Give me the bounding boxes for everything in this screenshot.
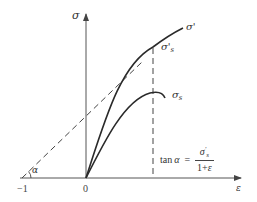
neg-one-tick-label: −1	[17, 184, 28, 194]
angle-arc	[29, 172, 32, 179]
true-ultimate-label-base: σ'	[161, 41, 171, 52]
formula-equals: =	[184, 154, 190, 165]
denominator-prefix: 1+	[197, 162, 208, 173]
diagram-canvas	[0, 0, 257, 202]
numerator-sub: s	[206, 151, 209, 159]
formula-alpha: α	[174, 154, 179, 165]
angle-alpha-label: α	[32, 166, 38, 175]
stress-strain-diagram: σ ε 0 −1 α σ' σ's σs tan α = σ's 1+ε	[0, 0, 257, 202]
formula-denominator: 1+ε	[195, 160, 214, 173]
x-axis-label: ε	[236, 184, 241, 193]
true-stress-curve-label: σ'	[186, 22, 196, 32]
denominator-var: ε	[208, 162, 212, 173]
origin-label: 0	[83, 184, 88, 194]
y-axis-label: σ	[72, 10, 80, 21]
true-ultimate-point-label: σ's	[161, 42, 174, 54]
formula-tan: tan	[160, 154, 172, 165]
true-stress-label-text: σ'	[186, 21, 196, 32]
formula-numerator: σ's	[198, 145, 211, 160]
engineering-stress-label-sub: s	[179, 94, 183, 102]
true-ultimate-label-sub: s	[171, 46, 175, 54]
engineering-stress-label-base: σ	[172, 89, 179, 100]
formula-fraction: σ's 1+ε	[195, 145, 214, 173]
tan-alpha-formula: tan α = σ's 1+ε	[160, 145, 214, 173]
engineering-stress-curve-label: σs	[172, 90, 182, 102]
